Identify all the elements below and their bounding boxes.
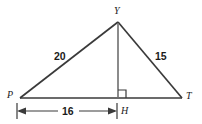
vertex-label-h: H	[121, 106, 128, 116]
geometry-figure: Y P T H 20 15 16	[0, 0, 202, 124]
dimension-arrow-right-icon	[108, 108, 117, 115]
vertex-label-y: Y	[114, 6, 120, 16]
side-length-yt: 15	[155, 51, 167, 62]
segment-yt	[118, 22, 182, 98]
segment-py	[20, 22, 118, 98]
dimension-length-ph: 16	[62, 106, 74, 117]
triangle-diagram-svg	[0, 0, 202, 124]
dimension-arrow-left-icon	[17, 108, 26, 115]
vertex-label-t: T	[186, 91, 192, 101]
vertex-label-p: P	[7, 90, 13, 100]
right-angle-marker-icon	[118, 90, 126, 98]
side-length-py: 20	[54, 51, 66, 62]
